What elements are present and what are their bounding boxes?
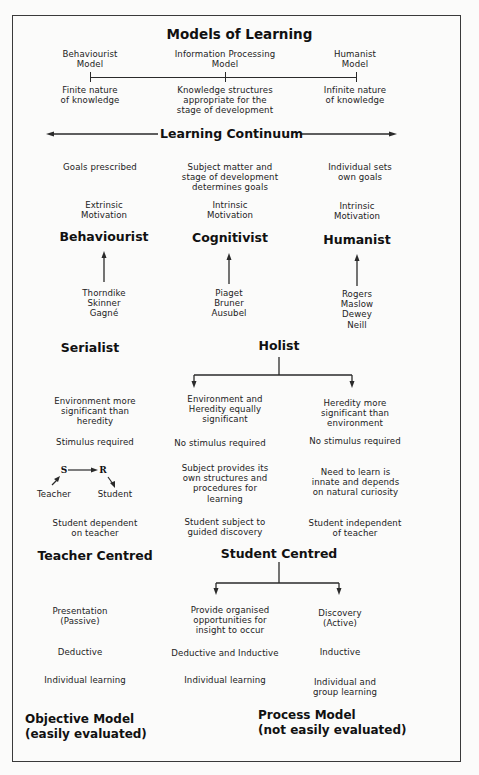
- grouping-teacher: Individual learning: [30, 675, 140, 685]
- process-model-note: (not easily evaluated): [258, 723, 407, 737]
- process-model-heading: Process Model: [258, 708, 356, 722]
- reasoning-inductive: Inductive: [290, 647, 390, 657]
- method-discovery: Discovery (Active): [290, 608, 390, 628]
- grouping-student-middle: Individual learning: [170, 675, 280, 685]
- grouping-student-right: Individual and group learning: [290, 677, 400, 697]
- objective-model-heading: Objective Model: [25, 712, 134, 726]
- reasoning-deductive-inductive: Deductive and Inductive: [155, 648, 295, 658]
- method-presentation: Presentation (Passive): [30, 606, 130, 626]
- reasoning-deductive: Deductive: [30, 647, 130, 657]
- student-centred-branch: [0, 0, 479, 620]
- method-organised-opportunities: Provide organised opportunities for insi…: [170, 605, 290, 636]
- objective-model-note: (easily evaluated): [25, 727, 147, 741]
